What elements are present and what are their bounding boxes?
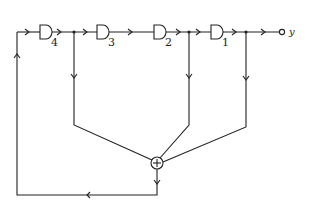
delay-element-3: 3 [97,25,115,49]
delay-label-2: 2 [165,36,172,49]
output-label: y [288,26,295,37]
output-terminal-icon [279,29,284,34]
feedback-return-path [14,32,160,198]
delay-element-2: 2 [154,25,172,49]
delay-label-3: 3 [108,36,115,49]
delay-label-4: 4 [51,36,58,49]
delay-label-1: 1 [222,36,229,49]
feedback-taps [71,32,249,162]
delay-element-1: 1 [211,25,229,49]
junction-dots [72,30,247,33]
delay-element-4: 4 [40,25,58,49]
shift-register-diagram: 4 3 2 1 y [0,0,310,209]
adder-icon [151,157,163,169]
